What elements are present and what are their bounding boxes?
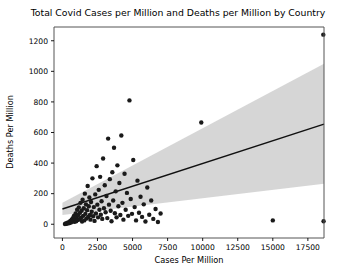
data-point [100, 217, 104, 221]
data-point [99, 213, 103, 217]
data-point [121, 217, 125, 221]
y-tick-label: 0 [43, 220, 48, 229]
x-tick-label: 12500 [226, 243, 250, 252]
data-point [129, 197, 133, 201]
data-point [112, 146, 116, 150]
data-point [98, 175, 102, 179]
data-point [85, 184, 89, 188]
data-point [117, 181, 121, 185]
data-point [90, 210, 94, 214]
data-point [120, 201, 124, 205]
data-point [99, 199, 103, 203]
y-tick-label: 800 [34, 98, 49, 107]
data-point [83, 191, 87, 195]
data-point [134, 218, 138, 222]
data-point [105, 216, 109, 220]
data-point [80, 198, 84, 202]
x-tick-label: 7500 [158, 243, 177, 252]
x-tick-label: 5000 [123, 243, 142, 252]
data-point [114, 215, 118, 219]
data-point [156, 220, 160, 224]
x-tick-label: 17500 [296, 243, 320, 252]
y-tick-label: 600 [34, 128, 49, 137]
data-point [132, 205, 136, 209]
data-point [116, 204, 120, 208]
data-point [149, 198, 153, 202]
data-point [103, 183, 107, 187]
data-point [110, 170, 114, 174]
y-tick-label: 200 [34, 189, 49, 198]
data-point [127, 98, 131, 102]
data-point [92, 219, 96, 223]
data-point [158, 211, 162, 215]
data-point [143, 219, 147, 223]
data-point [111, 198, 115, 202]
data-point [94, 164, 98, 168]
data-point [199, 120, 203, 124]
data-point [89, 200, 93, 204]
data-point [145, 185, 149, 189]
data-point [138, 195, 142, 199]
data-point [97, 208, 101, 212]
x-tick-label: 2500 [88, 243, 107, 252]
data-point [107, 202, 111, 206]
data-point [125, 191, 129, 195]
data-point [113, 211, 117, 215]
data-point [119, 133, 123, 137]
y-axis-label: Deaths Per Million [5, 95, 15, 169]
x-axis-ticks: 025005000750010000125001500017500 [60, 238, 320, 252]
data-point [97, 188, 101, 192]
data-point [131, 158, 135, 162]
data-point [87, 204, 91, 208]
data-point [103, 210, 107, 214]
data-point [108, 177, 112, 181]
data-point [104, 194, 108, 198]
data-point [109, 219, 113, 223]
data-point [137, 211, 141, 215]
y-tick-label: 1200 [29, 37, 48, 46]
chart-figure: Total Covid Cases per Million and Deaths… [0, 0, 356, 276]
data-point [90, 176, 94, 180]
x-tick-label: 0 [60, 243, 65, 252]
data-point [126, 214, 130, 218]
data-point [114, 189, 118, 193]
data-point [147, 213, 151, 217]
data-point [140, 215, 144, 219]
data-point [94, 211, 98, 215]
data-point [123, 208, 127, 212]
data-point [321, 32, 325, 36]
y-axis-ticks: 020040060080010001200 [29, 37, 54, 229]
data-point [106, 136, 110, 140]
data-point [271, 218, 275, 222]
data-point [135, 178, 139, 182]
data-point [130, 212, 134, 216]
data-point [85, 208, 89, 212]
data-point [153, 207, 157, 211]
scatter-plot: 025005000750010000125001500017500 020040… [0, 0, 356, 276]
data-point [122, 172, 126, 176]
data-point [87, 195, 91, 199]
data-point [108, 209, 112, 213]
data-point [115, 163, 119, 167]
data-point [118, 213, 122, 217]
data-point [151, 217, 155, 221]
data-point [95, 202, 99, 206]
data-point [142, 202, 146, 206]
y-tick-label: 400 [34, 159, 49, 168]
data-point [102, 206, 106, 210]
x-axis-label: Cases Per Million [155, 255, 224, 265]
data-point [101, 156, 105, 160]
data-point [77, 205, 81, 209]
data-point [93, 192, 97, 196]
x-tick-label: 10000 [191, 243, 215, 252]
y-tick-label: 1000 [29, 67, 48, 76]
x-tick-label: 15000 [261, 243, 285, 252]
